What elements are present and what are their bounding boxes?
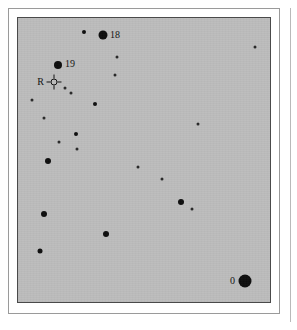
star-marker: [76, 148, 79, 151]
star-marker: [38, 249, 43, 254]
reticle-tick-s: [54, 86, 55, 90]
star-marker: [178, 199, 184, 205]
star-marker: [64, 87, 67, 90]
star-marker: [45, 158, 51, 164]
star-label-0: 0: [230, 276, 235, 286]
reticle-tick-n: [54, 75, 55, 79]
star-marker: [43, 117, 46, 120]
star-label-19: 19: [65, 59, 75, 69]
figure-root: 1819R0: [0, 0, 297, 330]
star-marker: [70, 92, 73, 95]
reticle-tick-w: [47, 82, 51, 83]
star-chart-field[interactable]: 1819R0: [17, 17, 271, 303]
star-marker: [197, 123, 200, 126]
star-marker: [58, 141, 61, 144]
star-marker: [74, 132, 78, 136]
star-marker-19: [54, 61, 62, 69]
star-marker-0: [239, 275, 252, 288]
star-marker: [31, 99, 34, 102]
star-marker: [103, 231, 109, 237]
star-label-18: 18: [110, 30, 120, 40]
star-marker: [82, 30, 86, 34]
star-marker: [254, 46, 257, 49]
star-marker-18: [99, 31, 108, 40]
reference-reticle-icon: [47, 75, 62, 90]
star-marker: [137, 166, 140, 169]
star-marker: [161, 178, 164, 181]
star-marker: [41, 211, 47, 217]
reticle-ring: [51, 79, 58, 86]
star-marker: [191, 208, 194, 211]
page-gutter-rule: [290, 8, 291, 322]
reticle-tick-e: [58, 82, 62, 83]
star-marker: [116, 56, 119, 59]
star-marker: [93, 102, 97, 106]
star-marker: [114, 74, 117, 77]
star-label-R: R: [37, 77, 44, 87]
